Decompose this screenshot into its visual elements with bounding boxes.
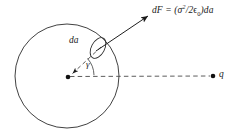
angle-gamma-label: γ <box>86 60 90 69</box>
point-charge-dot <box>211 74 216 79</box>
diagram-canvas <box>0 0 236 133</box>
sphere-center-dot <box>66 75 71 80</box>
point-charge-label: q <box>219 70 224 80</box>
force-formula-label: dF = (σ2/2ϵ0)da <box>152 6 214 16</box>
force-vector-arrow <box>96 16 148 51</box>
force-formula-prefix: dF = ( <box>152 5 177 15</box>
symmetry-axis-dashed-line <box>70 76 210 77</box>
force-formula-suffix: )da <box>201 5 214 15</box>
physics-diagram: dF = (σ2/2ϵ0)da da γ q <box>0 0 236 133</box>
patch-label: da <box>69 36 79 46</box>
